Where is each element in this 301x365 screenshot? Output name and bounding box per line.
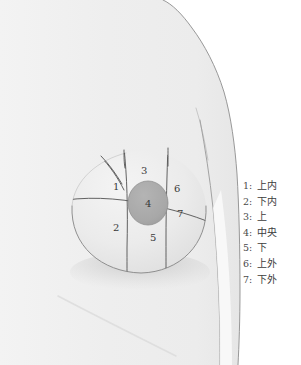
legend-term-4: 中央 (257, 224, 278, 239)
zone-number-5: 5 (150, 233, 156, 243)
zone-number-7: 7 (177, 209, 183, 219)
legend-key-7: 7: (243, 274, 257, 285)
legend-key-6: 6: (243, 258, 257, 269)
legend-key-5: 5: (243, 242, 257, 253)
legend-term-6: 上外 (257, 255, 278, 270)
zone-number-2: 2 (113, 223, 119, 233)
legend-term-5: 下 (257, 239, 267, 254)
legend-key-3: 3: (243, 211, 257, 222)
legend-term-3: 上 (257, 208, 267, 223)
zone-number-6: 6 (174, 184, 180, 194)
zone-legend: 1: 上内 2: 下内 3: 上 4: 中央 5: 下 6: 上外 7: 下外 (243, 177, 301, 286)
legend-term-2: 下内 (257, 193, 278, 208)
legend-key-2: 2: (243, 196, 257, 207)
zone-number-3: 3 (141, 166, 147, 176)
zone-number-1: 1 (113, 182, 119, 192)
legend-key-4: 4: (243, 227, 257, 238)
legend-key-1: 1: (243, 180, 257, 191)
zone-number-4: 4 (145, 199, 151, 209)
legend-item-3: 3: 上 (243, 208, 301, 224)
legend-item-6: 6: 上外 (243, 255, 301, 271)
legend-item-4: 4: 中央 (243, 224, 301, 240)
diagram-canvas: 1 2 3 4 5 6 7 1: 上内 2: 下内 3: 上 4: 中央 5: … (0, 0, 301, 365)
legend-item-1: 1: 上内 (243, 177, 301, 193)
legend-item-7: 7: 下外 (243, 271, 301, 287)
legend-item-5: 5: 下 (243, 239, 301, 255)
legend-item-2: 2: 下内 (243, 193, 301, 209)
legend-term-1: 上内 (257, 177, 278, 192)
legend-term-7: 下外 (257, 271, 278, 286)
